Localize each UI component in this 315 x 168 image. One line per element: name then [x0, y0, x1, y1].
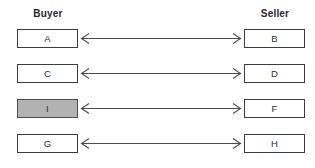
match-row: G H	[0, 134, 315, 154]
buyer-box-highlighted[interactable]: I	[17, 99, 78, 118]
match-row: A B	[0, 29, 315, 49]
double-headed-arrow-icon	[78, 134, 244, 153]
seller-box[interactable]: F	[244, 99, 305, 118]
match-row: C D	[0, 64, 315, 84]
buyer-box[interactable]: C	[17, 64, 78, 83]
double-headed-arrow-icon	[78, 64, 244, 83]
seller-box[interactable]: D	[244, 64, 305, 83]
column-header-buyer: Buyer	[18, 8, 78, 20]
seller-box[interactable]: H	[244, 134, 305, 153]
seller-box[interactable]: B	[244, 29, 305, 48]
buyer-box[interactable]: G	[17, 134, 78, 153]
bipartite-matching-diagram: Buyer Seller A B C D I	[0, 0, 315, 168]
buyer-box[interactable]: A	[17, 29, 78, 48]
double-headed-arrow-icon	[78, 99, 244, 118]
double-headed-arrow-icon	[78, 29, 244, 48]
column-header-seller: Seller	[245, 8, 305, 20]
match-row: I F	[0, 99, 315, 119]
